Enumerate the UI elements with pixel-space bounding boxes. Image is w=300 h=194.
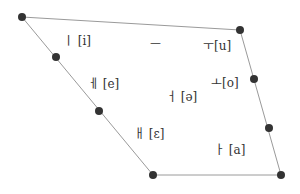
hangul-eu: ㅡ	[150, 38, 161, 52]
dot-corner-bottom-right	[277, 171, 285, 179]
hangul-eo: ㅓ	[166, 90, 177, 104]
vowel-label-e: ㅔ [e]	[88, 78, 119, 90]
dot-right-upper-mid	[250, 75, 258, 83]
vowel-trapezoid	[0, 0, 300, 194]
vowel-label-ae: ㅐ [ɛ]	[134, 128, 164, 140]
ipa-i: [i]	[78, 34, 91, 48]
dot-corner-bottom-left	[149, 171, 157, 179]
hangul-e: ㅔ	[88, 77, 99, 91]
ipa-u: [u]	[214, 39, 231, 53]
vowel-label-u: ㅜ[u]	[203, 40, 231, 52]
vowel-label-eu: ㅡ	[150, 39, 161, 51]
ipa-ae: [ɛ]	[149, 127, 165, 141]
vowel-label-a: ㅏ [a]	[214, 144, 245, 156]
vowel-label-i: ㅣ [i]	[63, 35, 91, 47]
dot-left-upper-mid	[52, 53, 60, 61]
dot-corner-top-right	[236, 26, 244, 34]
hangul-u: ㅜ	[203, 39, 214, 53]
hangul-i: ㅣ	[63, 34, 74, 48]
dot-right-lower-mid	[265, 124, 273, 132]
hangul-o: ㅗ	[211, 76, 222, 90]
vowel-label-eo: ㅓ [ə]	[166, 91, 197, 103]
dot-corner-top-left	[18, 13, 26, 21]
ipa-eo: [ə]	[181, 90, 197, 104]
ipa-o: [o]	[222, 76, 239, 90]
hangul-ae: ㅐ	[134, 127, 145, 141]
hangul-a: ㅏ	[214, 143, 225, 157]
ipa-a: [a]	[229, 143, 246, 157]
vowel-label-o: ㅗ[o]	[211, 77, 239, 89]
dot-left-lower-mid	[95, 107, 103, 115]
ipa-e: [e]	[103, 77, 119, 91]
